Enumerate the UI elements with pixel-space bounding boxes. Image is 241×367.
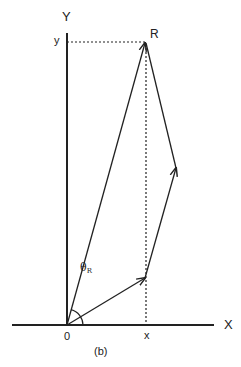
x-axis-label: X	[224, 318, 233, 331]
resultant-vector	[67, 43, 145, 325]
resultant-label: R	[150, 28, 159, 40]
origin-label: 0	[64, 331, 70, 342]
angle-arc	[71, 310, 83, 325]
theta-subscript: R	[87, 267, 92, 275]
theta-symbol: θ	[80, 261, 87, 274]
figure-caption: (b)	[94, 346, 107, 357]
vector-2	[145, 168, 176, 278]
vector-addition-diagram	[0, 0, 241, 367]
vector-3	[146, 43, 176, 168]
y-axis-label: Y	[62, 10, 71, 23]
theta-r-label: θR	[80, 262, 92, 275]
x-projection-label: x	[144, 330, 150, 341]
y-projection-label: y	[54, 35, 60, 46]
